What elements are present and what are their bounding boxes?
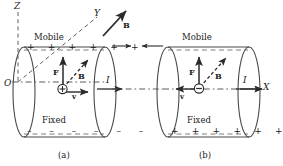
figure-canvas bbox=[0, 0, 283, 166]
charge-carrier-a bbox=[58, 84, 67, 93]
panel-a-field-label: B bbox=[78, 72, 85, 80]
panel-b-current-label: I bbox=[243, 76, 247, 85]
axis-label-y: Y bbox=[94, 9, 100, 18]
panel-a-external-field-label: B bbox=[123, 21, 130, 29]
panel-a-fixed-label: Fixed bbox=[42, 116, 66, 125]
axis-label-origin: O bbox=[4, 79, 11, 88]
panel-b-fixed-label: Fixed bbox=[187, 116, 211, 125]
panel-a-velocity-label: v bbox=[72, 93, 76, 100]
panel-a-caption: (a) bbox=[58, 151, 70, 160]
axis-label-z: Z bbox=[14, 2, 20, 11]
panel-a-bottom-charge-row: – – – – – – bbox=[27, 127, 151, 136]
physics-figure: Z Y X O Mobile Fixed + + + + + + – – – –… bbox=[0, 0, 283, 166]
panel-a-force-label: F bbox=[53, 68, 59, 76]
field-arrow-b bbox=[200, 58, 226, 87]
panel-b-force-label: F bbox=[189, 68, 195, 76]
panel-a-current-label: I bbox=[106, 76, 110, 85]
panel-a-top-charge-row: + + + + + + bbox=[27, 43, 144, 52]
panel-b-caption: (b) bbox=[199, 151, 211, 160]
charge-carrier-b bbox=[194, 84, 203, 93]
panel-b-bottom-charge-row: + + + + + + bbox=[171, 127, 283, 136]
panel-b-mobile-label: Mobile bbox=[182, 33, 212, 42]
axis-label-x: X bbox=[263, 83, 269, 92]
panel-a-mobile-label: Mobile bbox=[34, 33, 64, 42]
panel-b-velocity-label: v bbox=[180, 93, 184, 100]
panel-b-field-label: B bbox=[215, 72, 222, 80]
